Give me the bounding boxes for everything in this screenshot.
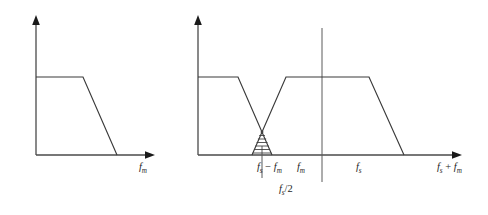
right-tick-fs-sub: s [359, 167, 362, 175]
left-tick-label-fm: fm [110, 161, 171, 175]
right-baseband-spectrum-curve [198, 77, 272, 155]
fs-half-suffix: /2 [285, 183, 293, 194]
svg-text:fs: fs [327, 161, 385, 175]
left-y-axis-arrowhead [32, 15, 40, 25]
left-plot-group: fm [32, 15, 170, 175]
sampled-image-spectrum-curve [252, 77, 404, 155]
figure-root: fm [0, 0, 488, 215]
left-tick-fm-sub: m [142, 167, 147, 175]
svg-text:fs/2: fs/2 [250, 183, 316, 197]
right-tick-fm-sub: m [300, 167, 305, 175]
right-y-axis-arrowhead [194, 15, 202, 25]
svg-text:fm: fm [110, 161, 171, 175]
left-baseband-spectrum-curve [36, 77, 117, 155]
right-x-axis-arrowhead [452, 151, 462, 159]
right-tick-label-fs-plus-fm: fs + fm [408, 161, 486, 175]
tick-fspfm-sub-b: m [457, 167, 462, 175]
right-plot-group: fs − fm fm fs fs + fm [194, 15, 485, 197]
spectrum-diagram: fm [0, 0, 488, 215]
right-tick-label-fs: fs [327, 161, 385, 175]
label-fs-over-two: fs/2 [250, 183, 316, 197]
svg-text:fs + fm: fs + fm [408, 161, 486, 175]
left-x-axis-arrowhead [145, 151, 155, 159]
tick-fspfm-operator: + [443, 161, 454, 172]
